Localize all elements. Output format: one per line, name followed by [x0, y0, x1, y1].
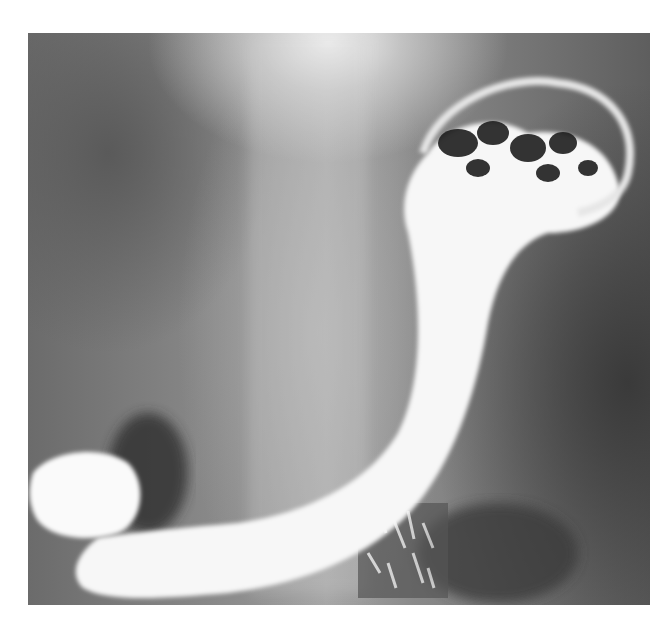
- stomach-barium-outline: [28, 33, 650, 605]
- radiograph-image: [28, 33, 650, 605]
